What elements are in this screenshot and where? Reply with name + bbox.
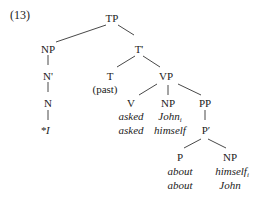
node-np-pobj: NP: [223, 151, 237, 163]
node-n-bar: N': [43, 70, 53, 82]
p-word-2: about: [167, 179, 192, 191]
p-word-1: about: [167, 165, 192, 177]
pobj-word-1-text: himself: [215, 165, 247, 177]
object-word-1-index: i: [180, 116, 182, 124]
v-word-2: asked: [118, 124, 143, 136]
edge-vp-pp: [178, 84, 201, 95]
node-tp: TP: [106, 12, 119, 24]
node-p-bar: P′: [202, 124, 211, 136]
v-word-1: asked: [118, 110, 143, 122]
node-t-feature: (past): [92, 83, 117, 95]
node-v: V: [127, 97, 135, 109]
node-np-object: NP: [161, 97, 175, 109]
edge-vp-v: [139, 84, 157, 95]
pobj-word-2: John: [219, 179, 240, 191]
node-pp: PP: [199, 97, 211, 109]
object-word-2: himself: [154, 124, 186, 136]
edge-pbar-np: [208, 139, 226, 148]
node-n: N: [44, 97, 52, 109]
object-word-1-text: John: [158, 110, 179, 122]
edge-tp-np: [56, 25, 106, 42]
node-t: T: [107, 70, 114, 82]
node-p: P: [177, 151, 183, 163]
edge-tp-tbar: [118, 25, 134, 35]
pobj-word-1-index: i: [247, 171, 249, 179]
edge-tbar-t: [117, 56, 135, 67]
node-np-subject: NP: [41, 43, 55, 55]
node-vp: VP: [159, 70, 173, 82]
edge-tbar-vp: [143, 56, 160, 67]
subject-word: *I: [40, 124, 49, 136]
edge-pbar-p: [184, 139, 201, 148]
node-t-bar: T': [135, 43, 144, 55]
